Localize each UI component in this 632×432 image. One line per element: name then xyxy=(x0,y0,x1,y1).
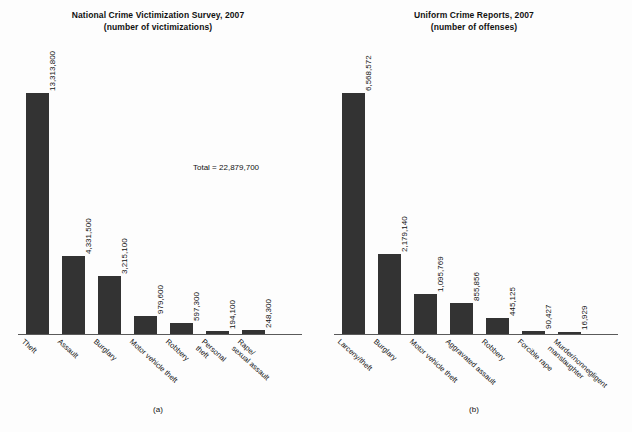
bar-value-label: 13,313,800 xyxy=(48,51,57,91)
figure-container: National Crime Victimization Survey, 200… xyxy=(0,0,632,432)
bar-value-label: 855,856 xyxy=(472,272,481,301)
category-label: Robbery xyxy=(164,337,191,363)
category-label: Rape/sexual assault xyxy=(230,337,277,382)
bar xyxy=(342,93,365,334)
panel-caption-a: (a) xyxy=(0,405,316,414)
bar-slot: 4,331,500 xyxy=(62,40,98,334)
bar-slot: 194,100 xyxy=(206,40,242,334)
chart-panel-b: Uniform Crime Reports, 2007 (number of o… xyxy=(316,0,632,432)
bar xyxy=(170,323,193,334)
category-label: Murder/nonnegligentmanslaughter xyxy=(546,337,609,396)
bar-group-a: 13,313,8004,331,5003,215,100979,600597,3… xyxy=(26,40,302,334)
category-label: Forcible rape xyxy=(516,337,555,373)
category-label: Assault xyxy=(56,337,80,360)
bar-slot: 855,856 xyxy=(450,40,486,334)
bar-value-label: 979,600 xyxy=(156,285,165,314)
bar-value-label: 6,568,572 xyxy=(364,55,373,91)
bar-value-label: 90,427 xyxy=(544,304,553,328)
category-label-line: Burglary xyxy=(372,337,399,362)
category-label-line: Assault xyxy=(56,337,80,360)
bar-value-label: 4,331,500 xyxy=(84,218,93,254)
bar-slot: 6,568,572 xyxy=(342,40,378,334)
category-label-line: Robbery xyxy=(480,337,507,363)
bar-value-label: 597,300 xyxy=(192,292,201,321)
bar-slot: 979,600 xyxy=(134,40,170,334)
bar xyxy=(62,256,85,334)
chart-title-b-line2: (number of offenses) xyxy=(316,21,632,33)
chart-title-b: Uniform Crime Reports, 2007 (number of o… xyxy=(316,9,632,33)
bar xyxy=(98,276,121,334)
category-label: Theft xyxy=(20,337,39,355)
category-label-line: Robbery xyxy=(164,337,191,363)
chart-title-b-line1: Uniform Crime Reports, 2007 xyxy=(414,10,534,20)
bar-slot: 248,300 xyxy=(242,40,278,334)
bar-value-label: 445,125 xyxy=(508,287,517,316)
chart-title-a-line1: National Crime Victimization Survey, 200… xyxy=(72,10,244,20)
bar-value-label: 194,100 xyxy=(228,300,237,329)
bar-value-label: 2,179,140 xyxy=(400,216,409,252)
bar-slot: 2,179,140 xyxy=(378,40,414,334)
category-labels-b: Larceny/theftBurglaryMotor vehicle theft… xyxy=(342,337,632,412)
bar-value-label: 3,215,100 xyxy=(120,238,129,274)
chart-panel-a: National Crime Victimization Survey, 200… xyxy=(0,0,316,432)
category-label: Burglary xyxy=(372,337,399,362)
plot-area-a: 13,313,8004,331,5003,215,100979,600597,3… xyxy=(18,40,302,335)
bar-slot: 3,215,100 xyxy=(98,40,134,334)
chart-title-a: National Crime Victimization Survey, 200… xyxy=(0,9,316,33)
bar-value-label: 16,929 xyxy=(580,306,589,330)
panel-caption-b: (b) xyxy=(316,405,632,414)
x-axis-line-a xyxy=(18,334,302,335)
bar xyxy=(378,254,401,334)
bar-slot: 13,313,800 xyxy=(26,40,62,334)
bar-slot: 445,125 xyxy=(486,40,522,334)
bar-slot: 16,929 xyxy=(558,40,594,334)
category-label-line: Larceny/theft xyxy=(336,337,374,373)
category-label: Burglary xyxy=(92,337,119,362)
category-label: Larceny/theft xyxy=(336,337,374,373)
category-label-line: Forcible rape xyxy=(516,337,555,373)
bar xyxy=(134,316,157,334)
category-label: Personaltheft xyxy=(194,337,228,370)
bar-slot: 597,300 xyxy=(170,40,206,334)
bar-slot: 1,095,769 xyxy=(414,40,450,334)
category-label: Robbery xyxy=(480,337,507,363)
category-labels-a: TheftAssaultBurglaryMotor vehicle theftR… xyxy=(26,337,316,412)
chart-title-a-line2: (number of victimizations) xyxy=(0,21,316,33)
bar xyxy=(414,294,437,334)
bar xyxy=(450,303,473,334)
category-label-line: Theft xyxy=(20,337,39,355)
bar-value-label: 1,095,769 xyxy=(436,256,445,292)
bar-slot: 90,427 xyxy=(522,40,558,334)
plot-area-b: 6,568,5722,179,1401,095,769855,856445,12… xyxy=(334,40,618,335)
category-label-line: Burglary xyxy=(92,337,119,362)
bar-value-label: 248,300 xyxy=(264,299,273,328)
bar xyxy=(26,93,49,334)
x-axis-line-b xyxy=(334,334,618,335)
bar-group-b: 6,568,5722,179,1401,095,769855,856445,12… xyxy=(342,40,618,334)
bar xyxy=(486,318,509,334)
